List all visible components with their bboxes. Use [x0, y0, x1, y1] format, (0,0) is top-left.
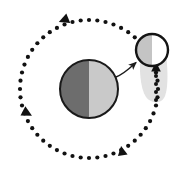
inset-sphere — [136, 34, 168, 66]
left-arrowhead — [20, 106, 34, 120]
bottom-right-arrowhead — [116, 145, 127, 156]
diagram-svg — [0, 0, 186, 171]
figure-canvas — [0, 0, 186, 171]
magnify-callout-arrow — [116, 63, 136, 78]
main-sphere — [60, 60, 118, 118]
